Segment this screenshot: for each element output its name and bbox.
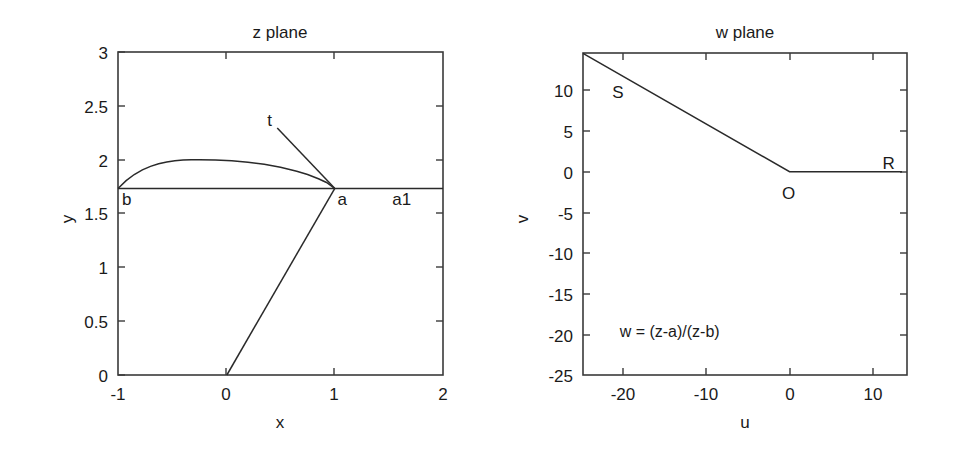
x-tick-label: 1 [329, 385, 338, 404]
point-label-o: O [782, 184, 795, 203]
x-tick-labels-w-plane: -20 -10 0 10 [611, 385, 883, 404]
plot-title-w-plane: w plane [715, 23, 775, 42]
series-image-contour [583, 53, 902, 171]
y-ticks-z-plane [118, 52, 443, 375]
y-axis-label-w-plane: v [513, 214, 532, 223]
y-tick-label: -10 [548, 245, 573, 264]
y-tick-labels-z-plane: 3 2.5 2 1.5 1 0.5 0 [84, 44, 108, 386]
point-labels-w-plane: S O R w = (z-a)/(z-b) [612, 83, 895, 340]
y-tick-label: -5 [558, 205, 573, 224]
axes-frame-z-plane [118, 52, 443, 375]
plot-w-plane: w plane 10 5 0 -5 -10 -15 [513, 23, 907, 432]
y-tick-label: 1.5 [84, 205, 108, 224]
point-label-s: S [612, 83, 623, 102]
y-tick-label: 10 [554, 82, 573, 101]
x-tick-label: -20 [611, 385, 636, 404]
y-tick-label: -20 [548, 327, 573, 346]
y-tick-label: 5 [564, 123, 573, 142]
y-tick-label: 3 [99, 44, 108, 63]
y-tick-label: 0 [99, 367, 108, 386]
y-tick-labels-w-plane: 10 5 0 -5 -10 -15 -20 -25 [548, 82, 573, 386]
plot-z-plane: z plane 3 2.5 2 1.5 1 0.5 [58, 23, 448, 432]
point-label-a: a [338, 190, 348, 209]
point-label-t: t [267, 111, 272, 130]
x-tick-label: -10 [694, 385, 719, 404]
y-tick-label: 2.5 [84, 98, 108, 117]
series-tangent-t [277, 128, 334, 188]
axes-box-z-plane [118, 52, 443, 375]
y-tick-label: 0 [564, 164, 573, 183]
point-labels-z-plane: b a a1 t [122, 111, 411, 209]
x-ticks-z-plane [226, 52, 334, 375]
y-tick-label: 2 [99, 152, 108, 171]
x-tick-label: 0 [221, 385, 230, 404]
y-ticks-w-plane [583, 90, 907, 335]
x-axis-label-z-plane: x [276, 413, 285, 432]
x-tick-label: 0 [785, 385, 794, 404]
x-axis-label-w-plane: u [740, 413, 749, 432]
x-tick-label: 10 [864, 385, 883, 404]
data-lines-w-plane [583, 53, 902, 171]
data-lines-z-plane [118, 128, 443, 375]
point-label-r: R [883, 154, 895, 173]
y-axis-label-z-plane: y [58, 214, 77, 223]
point-label-a1: a1 [392, 190, 411, 209]
y-tick-label: 0.5 [84, 313, 108, 332]
x-tick-labels-z-plane: -1 0 1 2 [110, 385, 447, 404]
point-label-b: b [122, 190, 131, 209]
series-ray-origin [227, 189, 335, 375]
y-tick-label: 1 [99, 259, 108, 278]
x-tick-label: -1 [110, 385, 125, 404]
plot-title-z-plane: z plane [253, 23, 308, 42]
x-tick-label: 2 [438, 385, 447, 404]
transform-formula-label: w = (z-a)/(z-b) [619, 323, 720, 340]
figure-canvas: z plane 3 2.5 2 1.5 1 0.5 [0, 0, 953, 456]
series-arc [118, 160, 335, 189]
y-tick-label: -15 [548, 286, 573, 305]
y-tick-label: -25 [548, 367, 573, 386]
